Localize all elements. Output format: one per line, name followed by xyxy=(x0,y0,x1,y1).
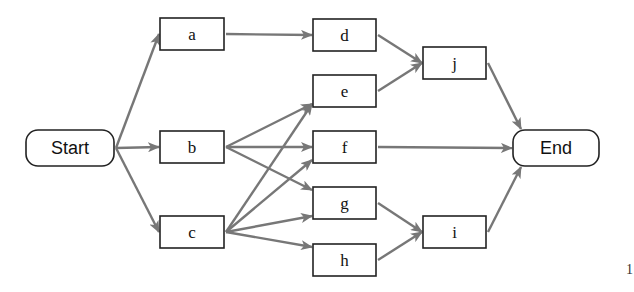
edge-b-to-e xyxy=(226,104,312,147)
node-g: g xyxy=(313,187,376,219)
node-j-label: j xyxy=(451,54,457,73)
node-j: j xyxy=(423,47,486,79)
node-a: a xyxy=(160,18,224,50)
edge-start-to-a xyxy=(116,34,159,148)
edge-c-to-e xyxy=(226,104,312,232)
edge-a-to-d xyxy=(226,34,312,35)
cropped-page-text: 1 xyxy=(626,262,633,278)
node-c: c xyxy=(160,216,224,248)
node-end-label: End xyxy=(540,138,572,158)
node-start-label: Start xyxy=(51,138,89,158)
edge-c-to-f xyxy=(226,160,312,232)
node-e: e xyxy=(313,75,376,107)
node-end: End xyxy=(513,130,599,166)
node-i: i xyxy=(423,216,486,248)
edge-start-to-c xyxy=(116,148,159,232)
node-h: h xyxy=(313,244,376,276)
node-f-label: f xyxy=(342,138,348,157)
edge-i-to-end xyxy=(488,167,521,232)
node-a-label: a xyxy=(188,25,196,44)
activity-network-diagram: StartabcdefghjiEnd xyxy=(0,0,634,292)
edge-c-to-h xyxy=(226,232,312,247)
node-f: f xyxy=(313,131,376,163)
node-c-label: c xyxy=(188,223,196,242)
node-i-label: i xyxy=(452,223,457,242)
edge-j-to-end xyxy=(488,63,521,129)
node-start: Start xyxy=(26,130,114,166)
edge-g-to-i xyxy=(378,203,422,232)
edge-h-to-i xyxy=(378,232,422,260)
node-b: b xyxy=(160,131,224,163)
node-g-label: g xyxy=(340,194,349,213)
edge-e-to-j xyxy=(378,63,422,91)
node-d: d xyxy=(313,19,376,51)
node-b-label: b xyxy=(188,138,197,157)
edge-f-to-end xyxy=(378,147,512,148)
edge-d-to-j xyxy=(378,35,422,63)
edge-c-to-g xyxy=(226,216,312,232)
edge-start-to-b xyxy=(116,147,159,148)
node-d-label: d xyxy=(340,26,349,45)
node-h-label: h xyxy=(340,251,349,270)
nodes-layer: StartabcdefghjiEnd xyxy=(26,18,599,276)
node-e-label: e xyxy=(341,82,349,101)
